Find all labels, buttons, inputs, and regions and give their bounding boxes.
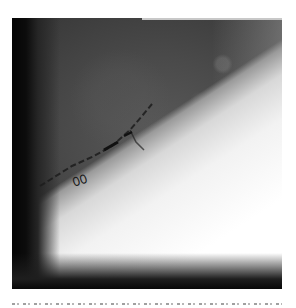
- caption-clipped-glyphs: [12, 303, 282, 305]
- fluoroscopy-image: 00: [12, 18, 282, 289]
- catheter-wire-icon: 00: [12, 18, 282, 289]
- figure-caption: [12, 299, 282, 308]
- marker-label: 00: [71, 171, 89, 190]
